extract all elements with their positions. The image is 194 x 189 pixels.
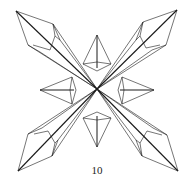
arm-upper-right [97, 10, 177, 89]
small-crystal-left [40, 77, 76, 104]
small-crystal-right [118, 77, 154, 104]
crystal-star-drawing [0, 0, 194, 189]
arm-upper-left [16, 11, 97, 89]
figure-label: 10 [0, 164, 194, 176]
arm-lower-right [97, 89, 178, 171]
small-crystal-bottom [83, 112, 111, 147]
arm-lower-left [18, 89, 97, 171]
small-crystal-top [83, 35, 111, 71]
